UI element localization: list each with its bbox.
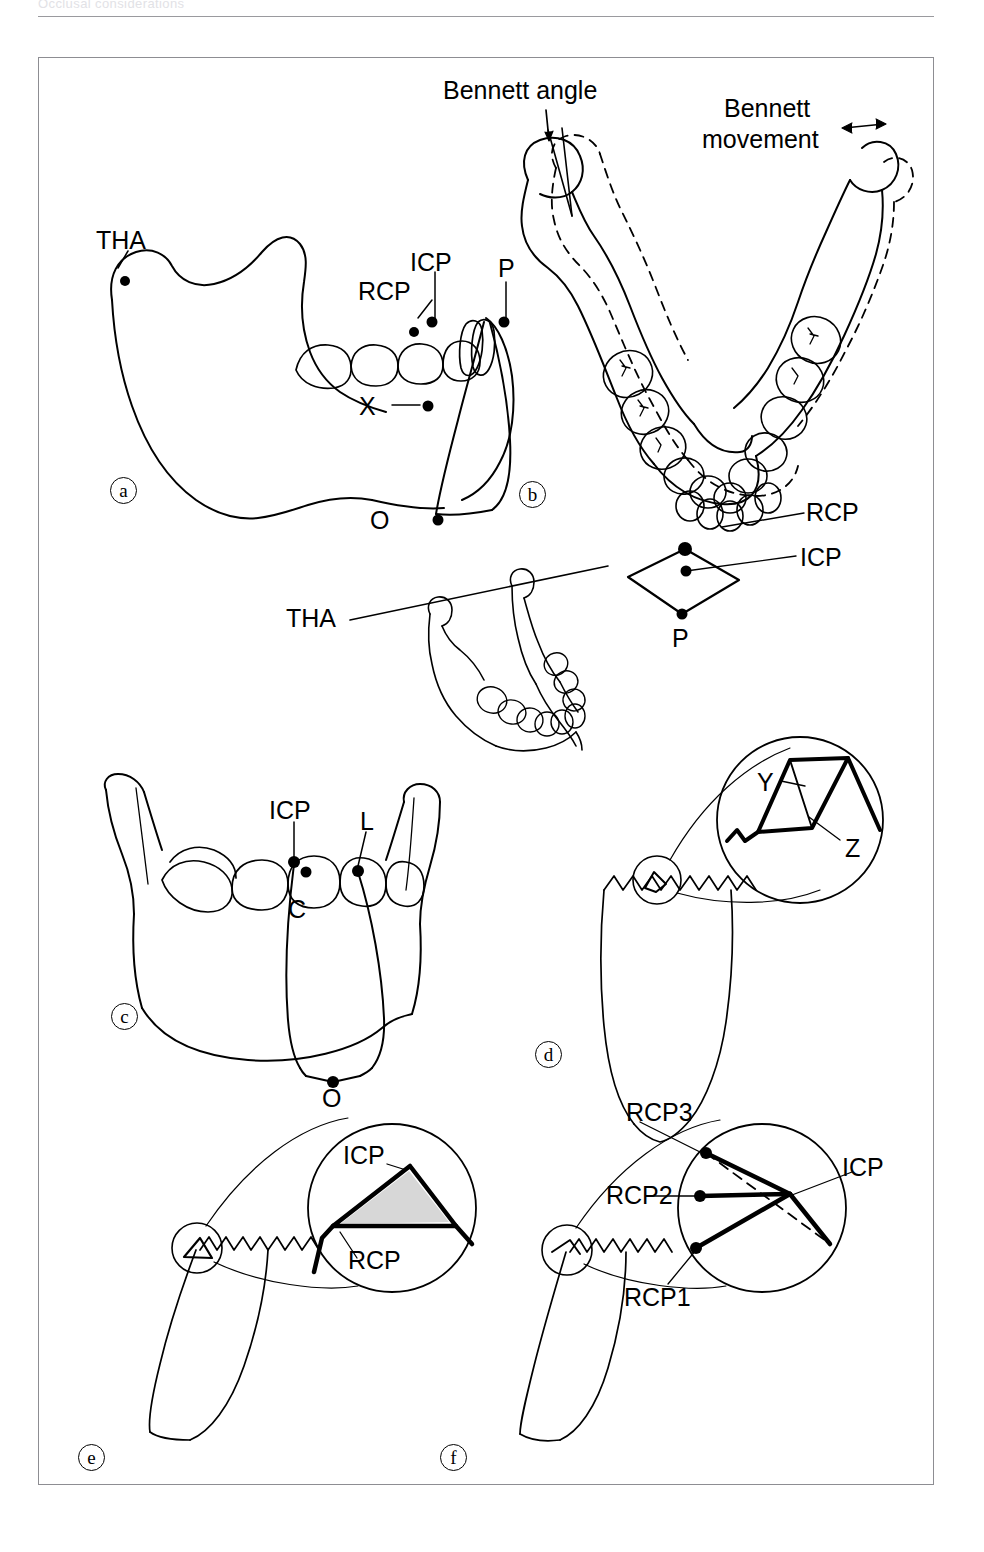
label-icp-panel-a: ICP	[410, 248, 452, 276]
label-bennett-movement-line2: movement	[702, 125, 819, 153]
label-tha-panel-mid: THA	[286, 604, 336, 632]
label-tha-panel-a: THA	[96, 226, 146, 254]
header-rule	[38, 16, 934, 17]
panel-mark-c: c	[111, 1003, 138, 1030]
label-p-panel-b: P	[672, 624, 689, 652]
label-rcp-panel-a: RCP	[358, 277, 411, 305]
label-icp-panel-c: ICP	[269, 796, 311, 824]
label-x-panel-a: X	[359, 392, 376, 420]
label-bennett-angle: Bennett angle	[443, 76, 597, 104]
label-o-panel-a: O	[370, 506, 389, 534]
label-rcp-panel-b: RCP	[806, 498, 859, 526]
label-icp-panel-f: ICP	[842, 1153, 884, 1181]
panel-mark-e: e	[78, 1444, 105, 1471]
panel-mark-b: b	[519, 481, 546, 508]
label-rcp1-panel-f: RCP1	[624, 1283, 691, 1311]
label-icp-panel-e: ICP	[343, 1141, 385, 1169]
label-icp-panel-b: ICP	[800, 543, 842, 571]
label-y-panel-d: Y	[757, 768, 774, 796]
label-bennett-movement-line1: Bennett	[724, 94, 810, 122]
panel-mark-f: f	[440, 1444, 467, 1471]
figure-frame	[38, 57, 934, 1485]
panel-mark-d: d	[535, 1041, 562, 1068]
running-header: Occlusal considerations	[38, 0, 185, 11]
figure-page: Occlusal considerations	[0, 0, 984, 1552]
label-o-panel-c: O	[322, 1084, 341, 1112]
label-rcp2-panel-f: RCP2	[606, 1181, 673, 1209]
label-rcp-panel-e: RCP	[348, 1246, 401, 1274]
label-rcp3-panel-f: RCP3	[626, 1098, 693, 1126]
label-p-panel-a: P	[498, 254, 515, 282]
label-c-panel-c: C	[288, 895, 306, 923]
label-l-panel-c: L	[360, 807, 374, 835]
label-z-panel-d: Z	[845, 834, 860, 862]
panel-mark-a: a	[110, 477, 137, 504]
